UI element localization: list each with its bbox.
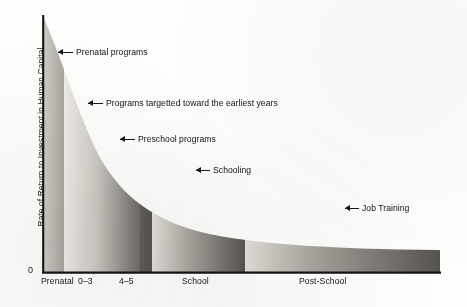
annotation-label: Preschool programs — [138, 134, 216, 144]
annotation-job-training: Job Training — [345, 203, 409, 213]
annotation-label: Schooling — [213, 165, 251, 175]
x-tick-post-school: Post-School — [299, 276, 346, 286]
x-tick-school: School — [182, 276, 209, 286]
x-tick-4-5: 4–5 — [119, 276, 134, 286]
arrow-left-icon — [120, 136, 135, 143]
x-tick-0-3: 0–3 — [78, 276, 93, 286]
arrow-left-icon — [58, 49, 73, 56]
arrow-left-icon — [345, 205, 359, 212]
annotation-label: Programs targetted toward the earliest y… — [106, 98, 278, 108]
annotation-schooling: Schooling — [196, 165, 251, 175]
annotation-earliest-years: Programs targetted toward the earliest y… — [88, 98, 278, 108]
arrow-left-icon — [88, 100, 103, 107]
annotation-label: Job Training — [362, 203, 409, 213]
arrow-left-icon — [196, 167, 210, 174]
annotation-prenatal-programs: Prenatal programs — [58, 47, 148, 57]
x-tick-prenatal: Prenatal — [41, 276, 74, 286]
band-post-school — [245, 10, 441, 276]
chart-container: Rate of Return to Investment in Human Ca… — [0, 0, 467, 307]
annotation-preschool-programs: Preschool programs — [120, 134, 216, 144]
annotation-label: Prenatal programs — [76, 47, 148, 57]
